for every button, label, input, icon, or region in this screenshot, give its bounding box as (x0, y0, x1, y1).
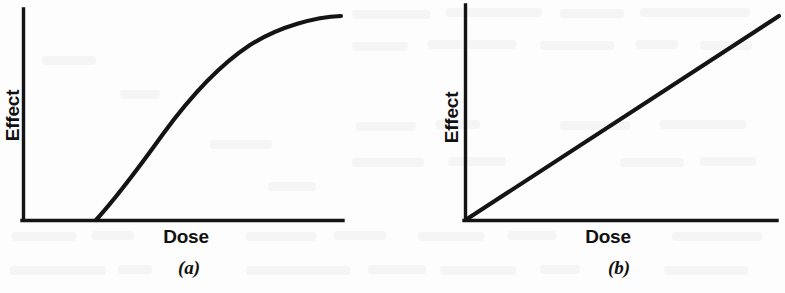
panel-b: Effect Dose (b) (400, 0, 785, 293)
figure-root: Effect Dose (a) Effect Dose (b) (0, 0, 785, 293)
y-axis-label-a: Effect (3, 86, 22, 146)
y-axis-label-b: Effect (442, 88, 461, 148)
panel-caption-a: (a) (154, 258, 224, 277)
dose-response-line-b (467, 16, 779, 219)
panel-caption-b: (b) (584, 258, 654, 277)
x-axis-label-b: Dose (572, 227, 644, 246)
x-axis-label-a: Dose (150, 227, 222, 246)
plot-a-svg (0, 0, 400, 293)
panel-a: Effect Dose (a) (0, 0, 400, 293)
dose-response-curve-a (96, 16, 341, 220)
